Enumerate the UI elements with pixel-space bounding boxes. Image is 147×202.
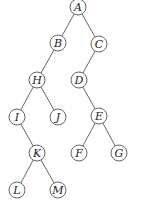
edge-C-D (83, 51, 95, 73)
node-label: B (53, 37, 62, 50)
edge-B-H (41, 50, 54, 73)
node-label: F (74, 147, 83, 160)
node-G: G (111, 145, 127, 161)
node-label: J (54, 111, 61, 124)
node-label: K (32, 147, 42, 160)
node-label: C (95, 38, 104, 51)
node-K: K (29, 145, 45, 161)
node-label: A (73, 1, 82, 14)
edge-H-I (21, 87, 33, 110)
edge-I-K (21, 124, 33, 146)
node-label: D (74, 74, 84, 87)
edge-E-F (83, 123, 95, 146)
node-F: F (71, 145, 87, 161)
node-label: L (12, 184, 20, 197)
edge-A-B (62, 14, 74, 36)
node-B: B (50, 35, 66, 51)
node-label: E (94, 110, 103, 123)
node-A: A (70, 0, 86, 15)
tree-diagram: ABCHDIJEKFGLM (0, 0, 147, 202)
node-L: L (9, 182, 25, 198)
node-H: H (29, 72, 45, 88)
node-label: M (51, 184, 64, 197)
edge-H-J (41, 87, 54, 110)
edge-K-L (21, 160, 33, 183)
edge-A-C (82, 14, 95, 37)
edge-K-M (41, 160, 54, 183)
node-C: C (91, 36, 107, 52)
node-E: E (91, 108, 107, 124)
edge-D-E (83, 87, 95, 109)
node-I: I (9, 109, 25, 125)
node-label: G (115, 147, 124, 160)
node-label: I (14, 111, 20, 124)
node-D: D (71, 72, 87, 88)
node-M: M (50, 182, 66, 198)
node-label: H (31, 74, 42, 87)
node-J: J (50, 109, 66, 125)
edge-E-G (103, 123, 115, 146)
